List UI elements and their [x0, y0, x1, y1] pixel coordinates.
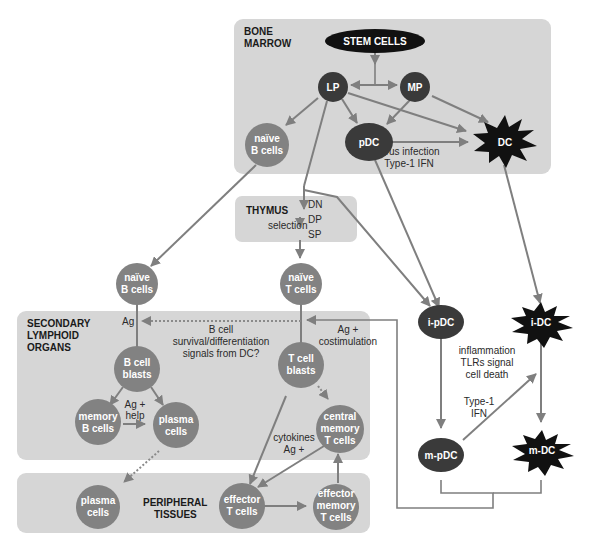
svg-text:MP: MP	[408, 82, 423, 93]
svg-text:effector: effector	[318, 488, 355, 499]
svg-text:naïve: naïve	[254, 133, 280, 144]
bcell-signal-1: B cell	[209, 324, 233, 335]
svg-text:memory: memory	[321, 423, 360, 434]
node-memory-b-cells: memory B cells	[75, 399, 121, 445]
thymus-stage-dp: DP	[308, 214, 322, 225]
node-naive-b-bm: naïve B cells	[245, 123, 289, 167]
node-central-memory-t-cells: central memory T cells	[316, 405, 364, 453]
node-pdc: pDC	[345, 123, 393, 161]
svg-text:B cells: B cells	[121, 284, 154, 295]
svg-text:i-pDC: i-pDC	[428, 317, 455, 328]
arrow-mpdc-type1-ifn	[463, 374, 536, 440]
svg-text:blasts: blasts	[287, 365, 316, 376]
node-effector-memory-t-cells: effector memory T cells	[313, 484, 359, 530]
inflammation-label-3: cell death	[466, 369, 509, 380]
node-stem-cells: STEM CELLS	[325, 29, 425, 53]
node-effector-t-cells: effector T cells	[219, 483, 265, 529]
node-plasma-cells-peripheral: plasma cells	[76, 485, 120, 529]
svg-text:LP: LP	[327, 82, 340, 93]
node-naive-t: naïve T cells	[280, 263, 322, 305]
svg-text:blasts: blasts	[123, 369, 152, 380]
svg-text:B cells: B cells	[251, 145, 284, 156]
svg-text:B cell: B cell	[124, 357, 151, 368]
svg-text:T cells: T cells	[324, 435, 356, 446]
svg-text:pDC: pDC	[359, 137, 380, 148]
inflammation-label-2: TLRs signal	[461, 357, 514, 368]
svg-text:effector: effector	[224, 494, 261, 505]
svg-text:T cells: T cells	[285, 284, 317, 295]
immune-cell-development-diagram: BONE MARROW THYMUS SECONDARY LYMPHOID OR…	[0, 0, 595, 546]
node-naive-b: naïve B cells	[116, 263, 158, 305]
costim-label-1: Ag +	[338, 324, 359, 335]
thymus-label: THYMUS	[246, 205, 289, 216]
node-mp: MP	[400, 72, 430, 102]
svg-text:memory: memory	[79, 411, 118, 422]
svg-text:naïve: naïve	[288, 272, 314, 283]
svg-text:T cells: T cells	[320, 512, 352, 523]
bcell-signal-3: signals from DC?	[183, 348, 260, 359]
region-thymus: THYMUS	[235, 196, 357, 242]
svg-text:STEM CELLS: STEM CELLS	[343, 36, 407, 47]
svg-text:cells: cells	[165, 426, 188, 437]
arrow-pdc-to-ipdc	[375, 160, 439, 307]
svg-text:T cells: T cells	[226, 506, 258, 517]
secondary-label-1: SECONDARY	[27, 318, 91, 329]
cytokines-label-2: Ag +	[284, 444, 305, 455]
costim-label-2: costimulation	[319, 336, 377, 347]
bcell-signal-2: survival/differentiation	[173, 336, 270, 347]
svg-text:B cells: B cells	[82, 423, 115, 434]
svg-text:plasma: plasma	[81, 495, 116, 506]
type1-ifn-label-bm: Type-1 IFN	[384, 158, 433, 169]
svg-text:m-pDC: m-pDC	[425, 450, 458, 461]
thymus-stage-sp: SP	[308, 229, 322, 240]
bone-marrow-label-1: BONE	[244, 26, 273, 37]
type1-ifn-label-2: IFN	[471, 408, 487, 419]
inflammation-label-1: inflammation	[459, 345, 516, 356]
cytokines-label-1: cytokines	[273, 432, 315, 443]
node-lp: LP	[318, 72, 348, 102]
svg-text:plasma: plasma	[159, 414, 194, 425]
selection-label: selection	[268, 220, 307, 231]
svg-text:T cell: T cell	[288, 353, 314, 364]
peripheral-label-1: PERIPHERAL	[143, 497, 207, 508]
peripheral-label-2: TISSUES	[154, 509, 197, 520]
node-plasma-cells-secondary: plasma cells	[153, 402, 199, 448]
svg-text:cells: cells	[87, 507, 110, 518]
secondary-label-3: ORGANS	[27, 342, 71, 353]
ag-label: Ag	[122, 316, 134, 327]
node-b-cell-blasts: B cell blasts	[114, 346, 160, 392]
svg-text:i-DC: i-DC	[531, 317, 552, 328]
bone-marrow-label-2: MARROW	[244, 38, 292, 49]
ag-help-1: Ag +	[125, 399, 146, 410]
arrow-dc-to-idc	[504, 165, 540, 303]
node-i-dc: i-DC	[511, 302, 573, 348]
type1-ifn-label-1: Type-1	[464, 396, 495, 407]
node-m-dc: m-DC	[512, 430, 574, 476]
thymus-stage-dn: DN	[308, 199, 322, 210]
node-i-pdc: i-pDC	[418, 305, 464, 339]
line-mdc-loop	[493, 480, 541, 493]
ag-help-2: help	[126, 410, 145, 421]
node-t-cell-blasts: T cell blasts	[278, 342, 324, 388]
svg-text:central: central	[324, 411, 357, 422]
secondary-label-2: LYMPHOID	[27, 330, 79, 341]
svg-text:memory: memory	[317, 500, 356, 511]
svg-text:DC: DC	[498, 137, 512, 148]
node-m-pdc: m-pDC	[418, 438, 464, 472]
svg-text:naïve: naïve	[124, 272, 150, 283]
svg-text:m-DC: m-DC	[529, 445, 556, 456]
